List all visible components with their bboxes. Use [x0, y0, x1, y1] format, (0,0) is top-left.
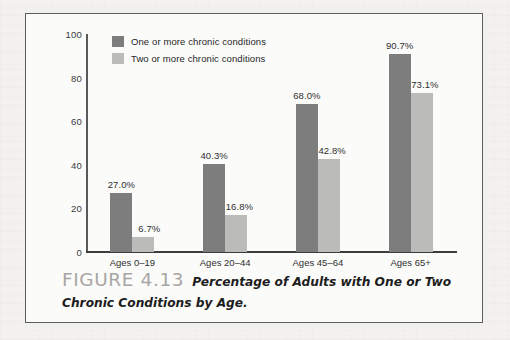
legend-item-label: One or more chronic conditions: [131, 36, 266, 47]
y-axis-tick-label: 60: [42, 116, 82, 127]
x-axis-tick-label: Ages 0–19: [110, 257, 155, 268]
bar-value-label: 42.8%: [318, 145, 345, 156]
bar-group: 90.7%73.1%: [364, 34, 457, 252]
y-axis-tick-label: 80: [42, 72, 82, 83]
bar-value-label: 90.7%: [386, 40, 413, 51]
bar: 68.0%: [296, 104, 318, 252]
legend-item: Two or more chronic conditions: [112, 53, 266, 64]
y-axis-tick-label: 40: [42, 159, 82, 170]
bar-value-label: 73.1%: [411, 79, 438, 90]
legend-item: One or more chronic conditions: [112, 36, 266, 47]
bar-group: 68.0%42.8%: [272, 34, 365, 252]
bar-value-label: 16.8%: [226, 201, 253, 212]
bar: 73.1%: [411, 93, 433, 252]
chart-plot-area: 020406080100 27.0%6.7%40.3%16.8%68.0%42.…: [26, 14, 484, 261]
x-axis-tick-label: Ages 65+: [390, 257, 430, 268]
chart-legend: One or more chronic conditionsTwo or mor…: [112, 36, 266, 70]
bar-value-label: 68.0%: [293, 90, 320, 101]
bar-value-label: 27.0%: [108, 179, 135, 190]
bar: 42.8%: [318, 159, 340, 252]
y-axis-tick-label: 0: [42, 247, 82, 258]
bar: 27.0%: [110, 193, 132, 252]
y-axis-tick-labels: 020406080100: [36, 14, 82, 261]
legend-swatch-dark: [112, 36, 124, 47]
bar: 16.8%: [225, 215, 247, 252]
legend-swatch-light: [112, 53, 124, 64]
figure-frame: 020406080100 27.0%6.7%40.3%16.8%68.0%42.…: [25, 13, 483, 323]
bar-value-label: 40.3%: [200, 150, 227, 161]
bar: 40.3%: [203, 164, 225, 252]
figure-caption: FIGURE 4.13Percentage of Adults with One…: [62, 269, 472, 311]
x-axis-tick-label: Ages 20–44: [200, 257, 251, 268]
bar-value-label: 6.7%: [138, 223, 160, 234]
x-axis-tick-label: Ages 45–64: [293, 257, 344, 268]
figure-number-label: FIGURE 4.13: [62, 269, 184, 290]
legend-item-label: Two or more chronic conditions: [131, 53, 265, 64]
y-axis-tick-label: 20: [42, 203, 82, 214]
bar: 90.7%: [389, 54, 411, 252]
y-axis-tick-label: 100: [42, 29, 82, 40]
bar: 6.7%: [132, 237, 154, 252]
